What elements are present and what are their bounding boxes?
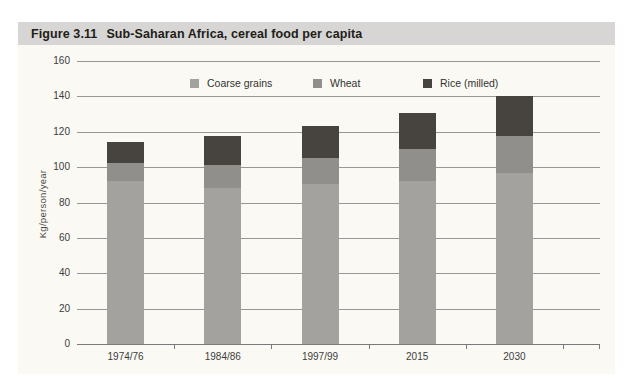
x-tick-label: 1997/99	[280, 351, 360, 362]
y-tick-label: 100	[34, 161, 70, 172]
axis-tick	[599, 345, 600, 349]
y-tick-label: 0	[34, 338, 70, 349]
bar-segment-wheat	[204, 165, 241, 188]
bar-segment-coarse-grains	[107, 181, 144, 345]
bar-segment-wheat	[107, 163, 144, 181]
figure-title: Sub-Saharan Africa, cereal food per capi…	[106, 27, 362, 41]
bar-segment-rice-milled	[204, 136, 241, 164]
figure-panel: Figure 3.11 Sub-Saharan Africa, cereal f…	[18, 22, 615, 374]
legend-label: Coarse grains	[207, 77, 272, 89]
axis-tick	[466, 345, 467, 349]
figure-number: Figure 3.11	[31, 27, 97, 41]
bar-segment-wheat	[496, 136, 533, 173]
axis-tick	[369, 345, 370, 349]
y-tick-label: 120	[34, 126, 70, 137]
y-tick-label: 140	[34, 90, 70, 101]
legend-label: Wheat	[330, 77, 360, 89]
bar-segment-wheat	[302, 158, 339, 185]
x-tick-label: 2015	[377, 351, 457, 362]
axis-tick	[563, 345, 564, 349]
bar-segment-coarse-grains	[204, 188, 241, 345]
bar-segment-coarse-grains	[302, 184, 339, 345]
x-tick-label: 1974/76	[86, 351, 166, 362]
legend-item: Wheat	[313, 77, 360, 89]
axis-tick	[174, 345, 175, 349]
page: { "figure": { "label": "Figure 3.11", "t…	[0, 0, 633, 388]
bar-segment-coarse-grains	[399, 181, 436, 345]
plot-area: Kg/person/year Coarse grainsWheatRice (m…	[77, 62, 600, 345]
legend-swatch-icon	[423, 79, 432, 88]
legend-swatch-icon	[190, 79, 199, 88]
x-axis-line	[77, 344, 600, 345]
legend: Coarse grainsWheatRice (milled)	[77, 77, 600, 89]
bar-segment-coarse-grains	[496, 173, 533, 345]
bar-segment-rice-milled	[107, 142, 144, 163]
y-tick-label: 20	[34, 303, 70, 314]
legend-swatch-icon	[313, 79, 322, 88]
bar-segment-wheat	[399, 149, 436, 181]
figure-title-bar: Figure 3.11 Sub-Saharan Africa, cereal f…	[18, 22, 615, 45]
bar-segment-rice-milled	[302, 126, 339, 158]
y-tick-label: 40	[34, 267, 70, 278]
y-tick-label: 160	[34, 55, 70, 66]
gridline	[77, 61, 600, 62]
bar-segment-rice-milled	[399, 113, 436, 148]
x-tick-label: 2030	[474, 351, 554, 362]
axis-tick	[271, 345, 272, 349]
x-tick-label: 1984/86	[183, 351, 263, 362]
legend-item: Rice (milled)	[423, 77, 498, 89]
y-tick-label: 60	[34, 232, 70, 243]
y-tick-label: 80	[34, 197, 70, 208]
legend-label: Rice (milled)	[440, 77, 498, 89]
bar-segment-rice-milled	[496, 96, 533, 137]
legend-item: Coarse grains	[190, 77, 272, 89]
